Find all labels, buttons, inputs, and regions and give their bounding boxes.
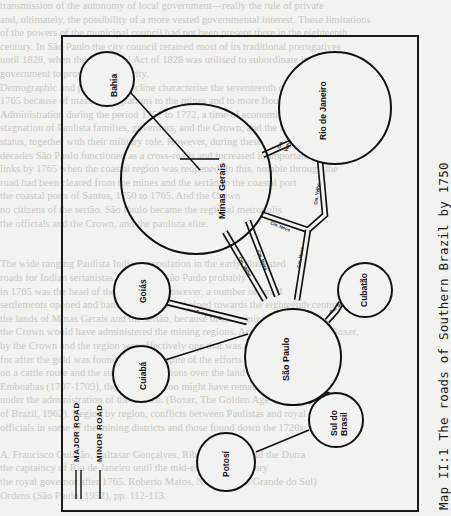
node-goias: Goiás bbox=[114, 263, 170, 319]
node-rio-de-janeiro: Rio de Janeiro bbox=[279, 52, 391, 164]
svg-text:Cubatão: Cubatão bbox=[359, 273, 369, 307]
road-bahia-minas bbox=[123, 84, 200, 170]
node-potosi: Potosí bbox=[197, 433, 255, 491]
svg-text:Cm. Novo: Cm. Novo bbox=[256, 250, 269, 272]
svg-text:Cm. Velho: Cm. Velho bbox=[237, 256, 252, 278]
svg-text:Rio de Janeiro: Rio de Janeiro bbox=[318, 81, 328, 140]
svg-text:Brasil: Brasil bbox=[339, 412, 349, 436]
svg-text:Minas Gerais: Minas Gerais bbox=[217, 163, 227, 219]
node-bahia: Bahia bbox=[80, 52, 134, 106]
svg-text:Goiás: Goiás bbox=[138, 279, 148, 303]
major-road-label: MAJOR ROAD bbox=[72, 402, 81, 462]
road-cuiaba-saopaulo bbox=[165, 334, 248, 360]
svg-text:São Paulo: São Paulo bbox=[281, 337, 291, 381]
road-potosi-suldobrasil bbox=[256, 430, 309, 452]
node-minas-gerais: Minas Gerais bbox=[121, 104, 271, 254]
node-cubatao: Cubatão bbox=[338, 263, 392, 317]
svg-text:Sul do: Sul do bbox=[329, 410, 339, 436]
node-sao-paulo: São Paulo bbox=[245, 309, 341, 405]
map-caption: Map II:1 The roads of Southern Brazil by… bbox=[436, 162, 451, 510]
road-goias-saopaulo bbox=[166, 302, 247, 322]
legend: MAJOR ROAD MINOR ROAD bbox=[72, 402, 104, 499]
node-sul-do-brasil: Sul do Brasil bbox=[309, 393, 363, 447]
svg-text:Cuiabá: Cuiabá bbox=[138, 361, 148, 390]
legend-major-road: MAJOR ROAD bbox=[72, 402, 81, 499]
svg-text:Potosí: Potosí bbox=[221, 450, 231, 477]
node-cuiaba: Cuiabá bbox=[113, 346, 169, 402]
svg-text:Bahia: Bahia bbox=[109, 74, 119, 97]
legend-minor-road: MINOR ROAD bbox=[95, 405, 104, 499]
minor-road-label: MINOR ROAD bbox=[95, 405, 104, 462]
